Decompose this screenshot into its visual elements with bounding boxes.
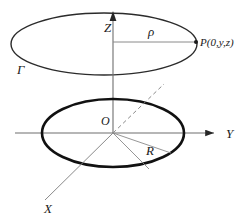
gamma-curve-label: Γ <box>16 62 25 77</box>
z-axis-label: Z <box>104 20 112 35</box>
rho-label: ρ <box>147 24 154 39</box>
radius-line-lower <box>113 133 149 169</box>
diagram-canvas: Z Y X Γ ρ O R P(0,y,z) <box>0 0 249 223</box>
origin-label: O <box>101 114 110 128</box>
figure-container: Z Y X Γ ρ O R P(0,y,z) <box>0 0 249 223</box>
radius-label: R <box>145 143 154 158</box>
point-p-marker <box>194 40 198 44</box>
point-p-label: P(0,y,z) <box>199 36 234 49</box>
y-axis-label: Y <box>226 126 235 141</box>
x-axis-dashed-line <box>113 84 164 133</box>
radius-line-upper <box>113 133 171 153</box>
x-axis-label: X <box>43 201 53 216</box>
